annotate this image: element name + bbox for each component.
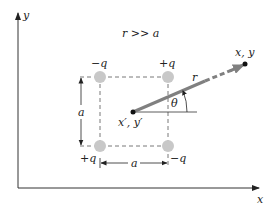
- distance-vector: [133, 65, 243, 112]
- vertical-dimension-label: a: [78, 106, 85, 119]
- y-axis-label: y: [22, 9, 30, 22]
- charge-bottom-left: [94, 140, 106, 152]
- condition-label: r >> a: [122, 27, 159, 40]
- horizontal-dimension-label: a: [131, 157, 138, 170]
- angle-arc: [183, 91, 187, 112]
- charge-top-right-label: +q: [159, 57, 175, 70]
- angle-label: θ: [171, 97, 178, 110]
- source-point: [131, 110, 136, 115]
- field-point: [243, 62, 248, 67]
- source-point-label: x′, y′: [118, 116, 143, 129]
- charge-bottom-right-label: −q: [170, 152, 186, 165]
- charge-top-right: [162, 71, 174, 83]
- charge-bottom-left-label: +q: [80, 152, 96, 165]
- quadrupole-diagram: y x r >> a a a −q +q +q −q: [0, 0, 276, 210]
- distance-label: r: [192, 71, 198, 84]
- charge-top-left-label: −q: [91, 57, 107, 70]
- charge-top-left: [94, 71, 106, 83]
- x-axis-label: x: [257, 193, 264, 206]
- field-point-label: x, y: [235, 46, 255, 59]
- vertical-dimension: a: [76, 78, 86, 145]
- charge-bottom-right: [162, 140, 174, 152]
- horizontal-dimension: a: [100, 156, 167, 170]
